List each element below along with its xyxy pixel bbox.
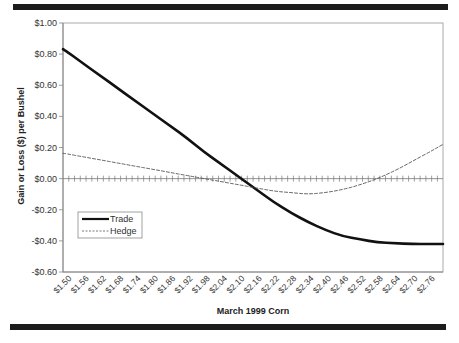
x-tick-label: $2.34 bbox=[293, 273, 315, 295]
x-tick-label: $1.92 bbox=[172, 273, 194, 295]
x-tick-label: $2.58 bbox=[363, 273, 385, 295]
zero-line bbox=[63, 176, 443, 182]
x-tick-label: $2.52 bbox=[345, 273, 367, 295]
x-tick-label: $2.04 bbox=[207, 273, 229, 295]
legend-trade-label: Trade bbox=[110, 214, 133, 224]
x-axis: $1.50$1.56$1.62$1.68$1.74$1.80$1.86$1.92… bbox=[51, 272, 443, 295]
x-tick-label: $2.28 bbox=[276, 273, 298, 295]
x-tick-label: $2.70 bbox=[397, 273, 419, 295]
x-tick-label: $1.62 bbox=[86, 273, 108, 295]
line-chart: $1.00$0.80$0.60$0.40$0.20$0.00-$0.20-$0.… bbox=[0, 0, 459, 343]
y-axis: $1.00$0.80$0.60$0.40$0.20$0.00-$0.20-$0.… bbox=[31, 18, 63, 277]
x-tick-label: $2.16 bbox=[242, 273, 264, 295]
x-tick-label: $2.40 bbox=[311, 273, 333, 295]
y-tick-label: $1.00 bbox=[34, 18, 57, 28]
y-tick-label: -$0.40 bbox=[31, 236, 57, 246]
x-tick-label: $1.68 bbox=[103, 273, 125, 295]
x-tick-label: $2.22 bbox=[259, 273, 281, 295]
legend-hedge-label: Hedge bbox=[110, 226, 137, 236]
x-tick-label: $2.64 bbox=[380, 273, 402, 295]
y-tick-label: $0.00 bbox=[34, 174, 57, 184]
x-tick-label: $1.98 bbox=[190, 273, 212, 295]
x-tick-label: $1.74 bbox=[120, 273, 142, 295]
y-tick-label: -$0.20 bbox=[31, 205, 57, 215]
x-tick-label: $2.10 bbox=[224, 273, 246, 295]
x-tick-label: $2.76 bbox=[415, 273, 437, 295]
y-tick-label: $0.80 bbox=[34, 49, 57, 59]
y-tick-label: $0.20 bbox=[34, 143, 57, 153]
x-tick-label: $2.46 bbox=[328, 273, 350, 295]
legend: Trade Hedge bbox=[78, 212, 142, 238]
x-tick-label: $1.86 bbox=[155, 273, 177, 295]
x-tick-label: $1.80 bbox=[138, 273, 160, 295]
x-tick-label: $1.56 bbox=[69, 273, 91, 295]
y-tick-label: -$0.60 bbox=[31, 267, 57, 277]
y-tick-label: $0.60 bbox=[34, 80, 57, 90]
y-tick-label: $0.40 bbox=[34, 111, 57, 121]
y-axis-title: Gain or Loss ($) per Bushel bbox=[16, 87, 26, 205]
x-axis-title: March 1999 Corn bbox=[217, 306, 290, 316]
